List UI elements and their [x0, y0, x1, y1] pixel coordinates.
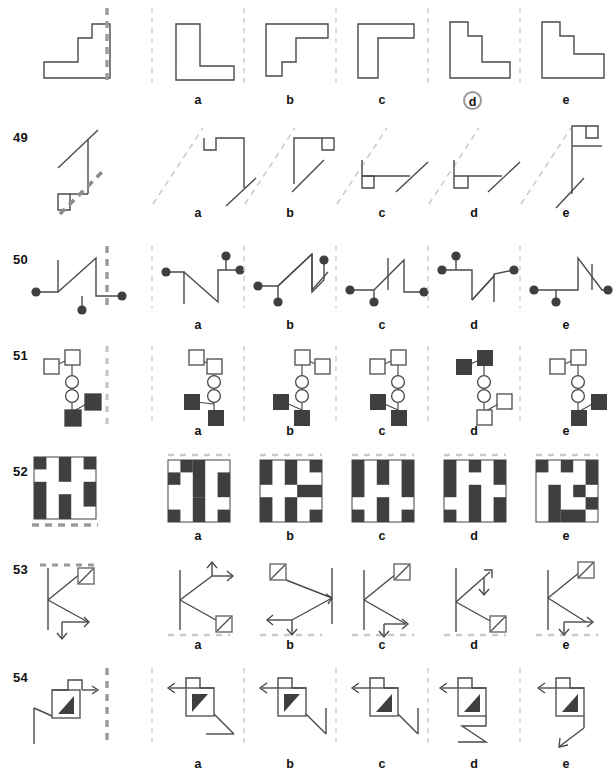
option-label-c: c	[370, 638, 394, 652]
row54-option-c[interactable]	[340, 668, 430, 754]
row48-mirror-axis	[104, 8, 110, 86]
row53-reference-figure	[38, 564, 122, 644]
option-label-e: e	[554, 206, 578, 220]
option-label-d-selected: d	[463, 91, 482, 110]
option-label-e: e	[554, 529, 578, 543]
row54-divider-d	[427, 668, 429, 746]
row53-option-b[interactable]	[262, 558, 346, 638]
row52-option-e[interactable]	[536, 460, 598, 522]
row52-option-d[interactable]	[444, 460, 506, 522]
row-number-53: 53	[13, 562, 28, 577]
row50-option-b[interactable]	[252, 246, 336, 316]
row51-option-b[interactable]	[266, 344, 346, 432]
option-label-a: a	[186, 757, 210, 771]
option-label-a: a	[186, 424, 210, 438]
row51-divider-a	[151, 346, 153, 424]
row50-option-a[interactable]	[160, 246, 244, 316]
row54-divider-c	[335, 668, 337, 746]
row50-divider-b	[243, 246, 245, 308]
row51-option-c[interactable]	[358, 344, 438, 432]
option-label-e: e	[554, 93, 578, 107]
row51-reference-figure	[36, 344, 136, 432]
row52-divider-b	[260, 452, 322, 458]
row52-reference-figure	[34, 457, 96, 519]
row54-divider-a	[151, 668, 153, 746]
option-label-b: b	[278, 318, 302, 332]
option-divider-b	[243, 8, 245, 86]
option-label-c: c	[370, 318, 394, 332]
row51-divider-e	[519, 346, 521, 424]
row49-option-e[interactable]	[546, 120, 612, 214]
row50-reference-figure	[26, 246, 112, 316]
option-label-c: c	[370, 206, 394, 220]
option-label-d: d	[462, 638, 486, 652]
row52-option-b[interactable]	[260, 460, 322, 522]
row53-option-d[interactable]	[446, 558, 530, 638]
row51-divider-c	[335, 346, 337, 424]
row52-option-c[interactable]	[352, 460, 414, 522]
row48-option-d[interactable]	[436, 10, 520, 90]
row52-divider-a	[168, 452, 230, 458]
row50-divider-a	[151, 246, 153, 308]
row54-option-b[interactable]	[248, 668, 338, 754]
question-row-48: a b c d e	[0, 0, 614, 118]
option-label-d: d	[462, 424, 486, 438]
row54-option-a[interactable]	[156, 668, 246, 754]
row-number-49: 49	[13, 130, 28, 145]
row54-divider-e	[519, 668, 521, 746]
option-label-a: a	[186, 206, 210, 220]
option-label-d: d	[462, 318, 486, 332]
row51-option-e[interactable]	[542, 344, 614, 432]
row50-option-e[interactable]	[528, 246, 612, 316]
row51-option-d[interactable]	[450, 344, 530, 432]
option-divider-a	[151, 8, 153, 86]
worksheet-page: a b c d e 49	[0, 0, 614, 779]
option-label-a: a	[186, 638, 210, 652]
option-label-d: d	[462, 206, 486, 220]
option-label-b: b	[278, 206, 302, 220]
row51-option-a[interactable]	[174, 344, 254, 432]
option-label-c: c	[370, 529, 394, 543]
row52-mirror-axis	[32, 522, 98, 528]
row49-reference-figure	[40, 122, 150, 222]
option-label-e: e	[554, 757, 578, 771]
row51-divider-d	[427, 346, 429, 424]
option-label-d: d	[462, 757, 486, 771]
option-label-e: e	[554, 424, 578, 438]
option-divider-c	[335, 8, 337, 86]
row54-option-e[interactable]	[524, 668, 614, 754]
row54-divider-b	[243, 668, 245, 746]
option-label-b: b	[278, 93, 302, 107]
row-number-52: 52	[13, 464, 28, 479]
question-row-50: 50	[0, 238, 614, 340]
row52-divider-e	[536, 452, 598, 458]
row54-option-d[interactable]	[432, 668, 522, 754]
row50-divider-e	[519, 246, 521, 308]
question-row-49: 49	[0, 118, 614, 228]
row54-mirror-axis	[104, 668, 110, 746]
row50-divider-c	[335, 246, 337, 308]
row51-mirror-axis	[104, 346, 110, 424]
question-row-52: 52	[0, 446, 614, 550]
row50-option-d[interactable]	[436, 246, 520, 316]
question-row-51: 51	[0, 336, 614, 446]
row48-option-e[interactable]	[528, 10, 612, 90]
row48-option-a[interactable]	[160, 10, 244, 90]
option-label-c: c	[370, 424, 394, 438]
question-row-53: 53	[0, 550, 614, 660]
option-label-b: b	[278, 529, 302, 543]
row53-option-c[interactable]	[354, 558, 438, 638]
row48-option-b[interactable]	[252, 10, 336, 90]
row52-divider-d	[444, 452, 506, 458]
row48-option-c[interactable]	[344, 10, 428, 90]
row52-option-a[interactable]	[168, 460, 230, 522]
option-divider-e	[519, 8, 521, 86]
option-label-b: b	[278, 424, 302, 438]
row51-divider-b	[243, 346, 245, 424]
row53-option-e[interactable]	[538, 558, 614, 638]
option-label-a: a	[186, 93, 210, 107]
row53-option-a[interactable]	[170, 558, 254, 638]
row50-option-c[interactable]	[344, 246, 428, 316]
row52-divider-c	[352, 452, 414, 458]
option-label-e: e	[554, 318, 578, 332]
